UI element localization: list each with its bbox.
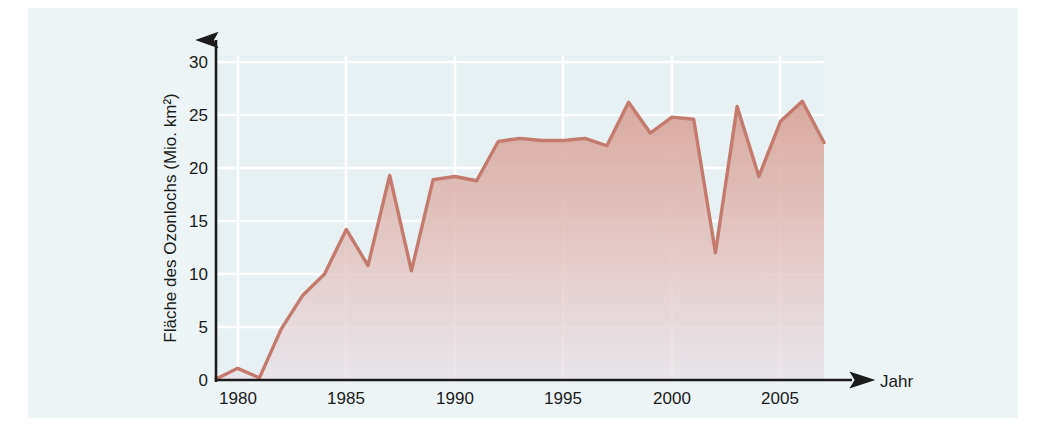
x-axis-title: Jahr (880, 372, 913, 391)
y-tick-label-30: 30 (189, 53, 208, 72)
ozone-hole-area-chart: 0 5 10 15 20 25 30 1980 1985 1990 1995 2… (0, 0, 1046, 426)
x-tick-label-1995: 1995 (544, 389, 582, 408)
y-axis-tick-labels: 0 5 10 15 20 25 30 (189, 53, 208, 390)
y-tick-label-0: 0 (199, 371, 208, 390)
x-tick-label-1985: 1985 (327, 389, 365, 408)
x-axis-title-text: Jahr (880, 372, 913, 391)
y-tick-label-10: 10 (189, 265, 208, 284)
y-tick-label-15: 15 (189, 212, 208, 231)
y-tick-label-20: 20 (189, 159, 208, 178)
y-tick-label-5: 5 (199, 318, 208, 337)
x-tick-label-2005: 2005 (761, 389, 799, 408)
x-tick-label-2000: 2000 (653, 389, 691, 408)
x-tick-label-1990: 1990 (436, 389, 474, 408)
figure-root: 0 5 10 15 20 25 30 1980 1985 1990 1995 2… (0, 0, 1046, 426)
y-axis-title-text: Fläche des Ozonlochs (Mio. km²) (161, 93, 180, 342)
x-tick-label-1980: 1980 (219, 389, 257, 408)
y-axis-title: Fläche des Ozonlochs (Mio. km²) (161, 93, 180, 342)
y-tick-label-25: 25 (189, 106, 208, 125)
x-axis-tick-labels: 1980 1985 1990 1995 2000 2005 (219, 389, 799, 408)
